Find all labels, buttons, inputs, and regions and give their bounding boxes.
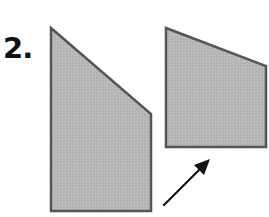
right-shape-polygon: [166, 28, 266, 147]
figure-canvas: [0, 0, 269, 217]
left-shape-polygon: [51, 28, 151, 211]
arrow-icon: [164, 159, 210, 205]
